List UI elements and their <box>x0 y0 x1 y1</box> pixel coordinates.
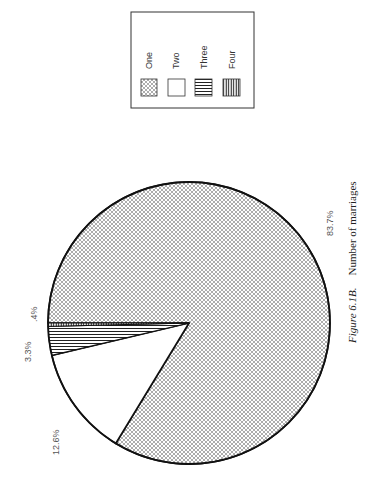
label-one-percent: 83.7% <box>325 210 335 236</box>
legend-label-two: Two <box>171 52 181 69</box>
pie <box>48 182 330 464</box>
pie-chart-figure: One Two Three Four .4% 3.3% 12.6% 83.7% … <box>0 0 377 491</box>
label-four-percent: .4% <box>29 306 39 322</box>
legend-label-three: Three <box>199 45 209 69</box>
label-two-percent: 12.6% <box>51 429 61 455</box>
legend-swatch-one <box>141 79 157 96</box>
caption-title: Number of marriages <box>346 181 358 275</box>
label-three-percent: 3.3% <box>23 341 33 362</box>
legend: One Two Three Four <box>131 12 254 108</box>
legend-swatch-two <box>168 79 185 96</box>
legend-swatch-three <box>195 79 212 96</box>
figure-caption: Figure 6.1B. Number of marriages <box>342 181 359 344</box>
legend-label-four: Four <box>227 50 237 69</box>
legend-label-one: One <box>144 52 154 69</box>
legend-swatch-four <box>223 79 240 96</box>
caption-label: Figure 6.1B. <box>346 288 358 345</box>
